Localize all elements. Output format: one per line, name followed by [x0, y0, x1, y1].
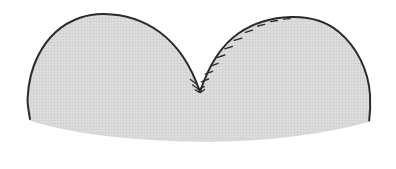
suture-tick-mark	[284, 19, 290, 20]
bilobed-figure	[0, 0, 396, 169]
figure-canvas: Bilobed heart-shaped outline with hatche…	[0, 0, 396, 169]
